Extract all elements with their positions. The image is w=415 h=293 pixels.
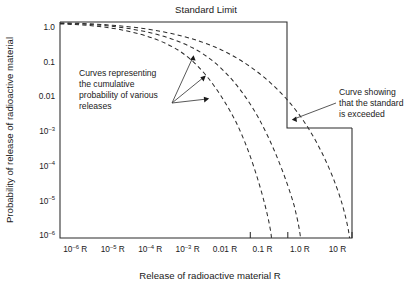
svg-text:1.0 R: 1.0 R [290,244,310,254]
y-tick-exp-6: –6 [48,230,55,236]
svg-text:10–4: 10–4 [39,160,56,170]
x-tick-unit-6: R [302,244,310,254]
x-tick-label-4: 0.01 [213,244,230,254]
x-tick-label-1: 10 [101,244,111,254]
x-tick-unit-7: R [338,244,346,254]
x-tick-label-7: 10 [329,244,339,254]
y-tick-label-1: 0.1 [43,57,55,67]
curves-annotation-line-1: the cumulative [79,79,135,89]
svg-text:10 R: 10 R [329,244,347,254]
x-tick-label-3: 10 [176,244,186,254]
svg-text:10–3: 10–3 [39,126,56,136]
curves-annotation-line-3: releases [79,101,111,111]
x-tick-unit-2: R [154,244,162,254]
chart-figure: Standard Limit 10–6 R 10–5 R 10–4 R 10–3… [0,0,415,293]
x-tick-label-0: 10 [63,244,73,254]
leader-line-2 [172,77,204,103]
y-tick-exp-3: –3 [48,126,55,132]
arrowhead-2 [200,76,206,82]
release-curve-1 [60,24,272,238]
y-tick-label-4: 10 [39,161,49,171]
release-curve-2 [60,24,301,239]
y-tick-label-5: 10 [39,196,49,206]
exceeded-annotation: Curve showing that the standard is excee… [339,87,404,119]
chart-title: Standard Limit [175,4,237,15]
svg-text:10–6: 10–6 [39,230,56,240]
x-tick-labels: 10–6 R 10–5 R 10–4 R 10–3 R 0.01 R 0.1 R… [63,244,346,254]
x-axis-title: Release of radioactive material R [139,270,280,281]
y-tick-labels: 1.0 0.1 0.01 10–3 10–4 10–5 10–6 [39,22,56,240]
x-tick-unit-3: R [191,244,199,254]
svg-text:0.01 R: 0.01 R [213,244,237,254]
x-tick-unit-4: R [229,244,237,254]
x-tick-unit-5: R [264,244,272,254]
exceeded-annotation-arrow [292,103,336,122]
curves-annotation: Curves representing the cumulative proba… [79,68,158,111]
x-tick-label-5: 0.1 [253,244,265,254]
svg-text:10–5: 10–5 [39,195,56,205]
y-tick-label-0: 1.0 [43,22,55,32]
x-tick-label-6: 1.0 [290,244,302,254]
curves-annotation-line-2: probability of various [79,90,158,100]
y-tick-label-3: 10 [39,126,49,136]
x-tick-unit-1: R [116,244,124,254]
svg-text:10–6 R: 10–6 R [63,244,87,254]
arrowhead-1 [190,55,196,60]
svg-text:0.1: 0.1 [43,57,55,67]
svg-text:10–5 R: 10–5 R [101,244,125,254]
exceeded-annotation-line-1: that the standard [339,98,404,108]
y-tick-exp-4: –4 [48,160,55,166]
arrowhead-4 [292,116,297,122]
exceeded-annotation-line-0: Curve showing [339,87,396,97]
leader-line-1 [172,57,193,103]
svg-text:10–4 R: 10–4 R [138,244,162,254]
svg-text:0.1 R: 0.1 R [253,244,273,254]
curves-annotation-line-0: Curves representing [79,68,157,78]
x-tick-marks [250,232,352,238]
y-axis-title: Probability of release of radioactive ma… [4,37,15,223]
curves-annotation-arrows [172,55,209,103]
arrowhead-3 [204,97,209,103]
svg-text:10–3 R: 10–3 R [176,244,200,254]
y-tick-label-6: 10 [39,230,49,240]
x-tick-unit-0: R [79,244,87,254]
y-tick-label-2: 0.01 [39,91,56,101]
x-tick-label-2: 10 [138,244,148,254]
y-tick-exp-5: –5 [48,195,55,201]
leader-line-3 [172,99,207,103]
svg-text:1.0: 1.0 [43,22,55,32]
plot-frame [60,22,352,238]
leader-line-4 [294,103,336,119]
svg-text:0.01: 0.01 [39,91,56,101]
exceeded-annotation-line-2: is exceeded [339,109,385,119]
